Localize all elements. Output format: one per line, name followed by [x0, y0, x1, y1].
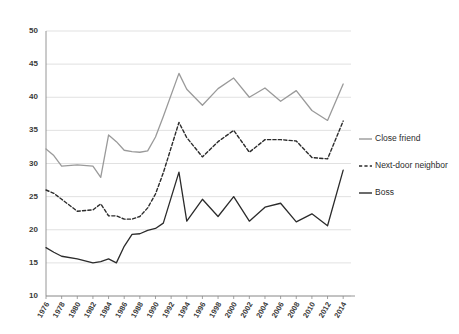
data-series	[46, 73, 343, 262]
x-tick-label-1982: 1982	[82, 301, 98, 320]
chart-legend: Close friendNext-door neighborBoss	[359, 133, 448, 197]
y-tick-label-10: 10	[29, 291, 38, 300]
x-tick-label-2004: 2004	[254, 300, 271, 320]
x-tick-label-1988: 1988	[129, 301, 145, 320]
x-tick-label-2000: 2000	[223, 301, 239, 320]
x-tick-label-1990: 1990	[145, 301, 161, 320]
y-tick-label-15: 15	[29, 258, 38, 267]
legend-label-boss: Boss	[375, 187, 394, 197]
x-tick-label-1984: 1984	[98, 300, 115, 320]
y-tick-label-25: 25	[29, 192, 38, 201]
x-tick-label-1994: 1994	[176, 300, 193, 320]
x-tick-label-2012: 2012	[317, 301, 333, 320]
x-tick-label-1978: 1978	[51, 301, 67, 320]
x-axis	[46, 296, 355, 299]
series-line-close-friend	[46, 73, 343, 177]
line-chart: 101520253035404550 197619781980198219841…	[0, 0, 459, 334]
x-tick-labels: 1976197819801982198419861988199019921994…	[35, 300, 349, 320]
series-line-next-door-neighbor	[46, 121, 343, 219]
y-tick-label-45: 45	[29, 59, 38, 68]
y-tick-label-40: 40	[29, 92, 38, 101]
x-tick-label-1976: 1976	[35, 301, 51, 320]
y-tick-label-20: 20	[29, 225, 38, 234]
legend-label-next-door-neighbor: Next-door neighbor	[375, 160, 448, 170]
x-tick-label-1996: 1996	[192, 301, 208, 320]
x-tick-label-1992: 1992	[160, 301, 176, 320]
x-tick-label-2008: 2008	[285, 301, 301, 320]
y-tick-label-35: 35	[29, 125, 38, 134]
x-tick-label-2014: 2014	[332, 300, 349, 320]
x-tick-label-2002: 2002	[238, 301, 254, 320]
y-tick-label-30: 30	[29, 159, 38, 168]
x-tick-label-1986: 1986	[113, 301, 129, 320]
x-tick-label-2010: 2010	[301, 301, 317, 320]
x-tick-label-2006: 2006	[270, 301, 286, 320]
x-tick-label-1998: 1998	[207, 301, 223, 320]
series-line-boss	[46, 170, 343, 263]
legend-label-close-friend: Close friend	[375, 133, 421, 143]
gridlines	[46, 31, 351, 296]
chart-svg: 101520253035404550 197619781980198219841…	[0, 0, 459, 334]
y-tick-label-50: 50	[29, 26, 38, 35]
x-tick-label-1980: 1980	[66, 301, 82, 320]
y-tick-labels: 101520253035404550	[29, 26, 38, 300]
